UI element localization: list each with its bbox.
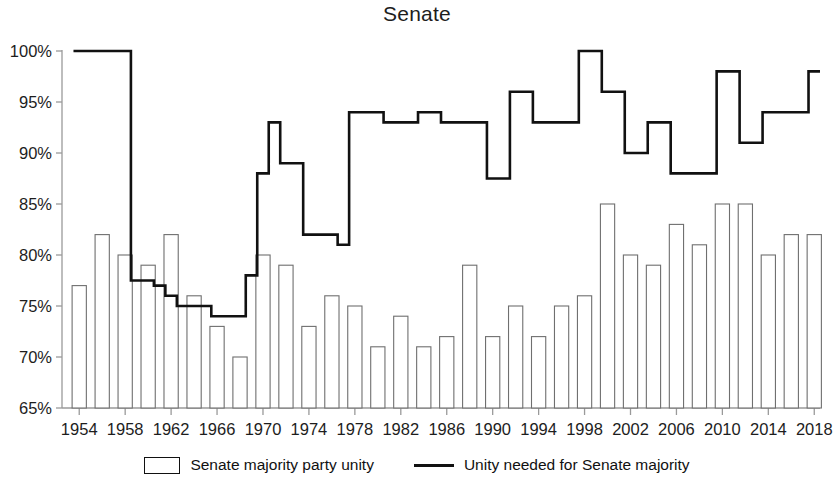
legend-entry-bar: Senate majority party unity bbox=[144, 456, 374, 474]
x-tick-label: 1970 bbox=[245, 420, 282, 438]
bar bbox=[738, 204, 752, 408]
bar bbox=[715, 204, 729, 408]
chart-legend: Senate majority party unity Unity needed… bbox=[0, 456, 834, 474]
senate-unity-chart: 65%70%75%80%85%90%95%100% 19541958196219… bbox=[0, 0, 834, 488]
y-tick-label: 75% bbox=[19, 297, 52, 315]
bar bbox=[600, 204, 614, 408]
bar bbox=[463, 265, 477, 408]
bar bbox=[692, 245, 706, 408]
x-tick-label: 1974 bbox=[291, 420, 328, 438]
bar bbox=[279, 265, 293, 408]
x-tick-label: 2010 bbox=[704, 420, 741, 438]
bar bbox=[72, 286, 86, 408]
bar bbox=[440, 337, 454, 408]
y-tick-label: 85% bbox=[19, 195, 52, 213]
x-tick-label: 2006 bbox=[658, 420, 695, 438]
bar bbox=[187, 296, 201, 408]
bar bbox=[371, 347, 385, 408]
x-tick-label: 1994 bbox=[520, 420, 557, 438]
bar bbox=[486, 337, 500, 408]
legend-line-label: Unity needed for Senate majority bbox=[464, 456, 690, 474]
unity-needed-line bbox=[73, 51, 820, 316]
x-tick-label: 1958 bbox=[107, 420, 144, 438]
bar bbox=[623, 255, 637, 408]
y-tick-label: 95% bbox=[19, 93, 52, 111]
x-tick-label: 1982 bbox=[382, 420, 419, 438]
bar bbox=[95, 235, 109, 408]
x-tick-label: 2018 bbox=[796, 420, 833, 438]
legend-entry-line: Unity needed for Senate majority bbox=[414, 456, 690, 474]
bar bbox=[532, 337, 546, 408]
bar bbox=[210, 326, 224, 408]
bar bbox=[233, 357, 247, 408]
bar bbox=[669, 224, 683, 408]
y-tick-label: 70% bbox=[19, 348, 52, 366]
x-tick-label: 1986 bbox=[428, 420, 465, 438]
x-tick-label: 1954 bbox=[61, 420, 98, 438]
x-tick-label: 1962 bbox=[153, 420, 190, 438]
bar bbox=[761, 255, 775, 408]
x-tick-label: 2014 bbox=[750, 420, 787, 438]
bar bbox=[646, 265, 660, 408]
x-axis: 1954195819621966197019741978198219861990… bbox=[61, 408, 833, 438]
x-tick-label: 1978 bbox=[337, 420, 374, 438]
y-tick-label: 100% bbox=[10, 42, 53, 60]
x-tick-label: 1966 bbox=[199, 420, 236, 438]
line-series-unity-needed-for-senate-majority bbox=[73, 51, 820, 316]
bar bbox=[256, 255, 270, 408]
bar bbox=[417, 347, 431, 408]
bar bbox=[509, 306, 523, 408]
y-axis: 65%70%75%80%85%90%95%100% bbox=[10, 42, 62, 417]
bar bbox=[164, 235, 178, 408]
legend-bar-swatch-icon bbox=[144, 457, 180, 474]
legend-line-swatch-icon bbox=[414, 464, 454, 467]
x-tick-label: 2002 bbox=[612, 420, 649, 438]
bar bbox=[554, 306, 568, 408]
bar bbox=[784, 235, 798, 408]
bar bbox=[325, 296, 339, 408]
y-tick-label: 90% bbox=[19, 144, 52, 162]
bar bbox=[807, 235, 821, 408]
bar bbox=[302, 326, 316, 408]
bar bbox=[394, 316, 408, 408]
bar bbox=[577, 296, 591, 408]
legend-bar-label: Senate majority party unity bbox=[190, 456, 374, 474]
x-tick-label: 1990 bbox=[474, 420, 511, 438]
bar bbox=[348, 306, 362, 408]
y-tick-label: 65% bbox=[19, 399, 52, 417]
chart-figure: Senate 65%70%75%80%85%90%95%100% 1954195… bbox=[0, 0, 834, 488]
y-tick-label: 80% bbox=[19, 246, 52, 264]
x-tick-label: 1998 bbox=[566, 420, 603, 438]
